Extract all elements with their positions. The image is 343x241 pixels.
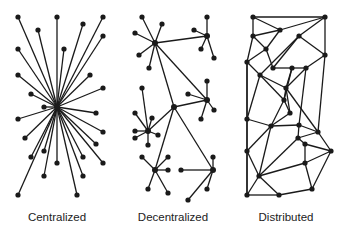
node — [303, 65, 308, 70]
node — [250, 14, 255, 19]
node — [93, 141, 98, 146]
edge — [253, 36, 266, 49]
edge — [174, 100, 207, 107]
edge — [299, 36, 325, 55]
node — [145, 186, 150, 191]
edge — [260, 75, 284, 100]
node — [132, 110, 137, 115]
edge — [271, 125, 299, 126]
node — [256, 173, 261, 178]
node — [302, 141, 307, 146]
node — [244, 192, 249, 197]
node — [132, 30, 137, 35]
node — [15, 14, 20, 19]
node — [35, 27, 40, 32]
node — [54, 14, 59, 19]
node — [283, 85, 288, 90]
edge — [188, 170, 213, 200]
node — [296, 33, 301, 38]
node — [270, 65, 275, 70]
edge — [148, 170, 155, 189]
node — [191, 27, 196, 32]
node — [15, 192, 20, 197]
node — [165, 154, 170, 159]
node — [281, 97, 286, 102]
node — [185, 91, 190, 96]
node — [204, 97, 210, 103]
node — [136, 52, 141, 57]
decentralized-network — [132, 14, 216, 202]
node — [100, 129, 105, 134]
edge — [247, 75, 260, 119]
edge — [259, 176, 279, 195]
edge — [18, 107, 57, 195]
node — [100, 160, 105, 165]
node — [328, 148, 333, 153]
edge — [155, 170, 168, 193]
node — [171, 104, 177, 110]
node — [100, 85, 105, 90]
node — [165, 167, 170, 172]
node — [198, 116, 203, 121]
node — [204, 78, 209, 83]
node — [41, 173, 46, 178]
node — [178, 167, 183, 172]
node — [149, 115, 154, 120]
edge — [306, 55, 325, 68]
node — [204, 33, 210, 39]
edge — [253, 17, 280, 30]
node — [100, 33, 105, 38]
node — [302, 160, 307, 165]
node — [296, 122, 301, 127]
node — [145, 128, 151, 134]
edge — [299, 17, 325, 36]
node — [41, 104, 46, 109]
node — [139, 14, 144, 19]
edge — [57, 17, 103, 107]
node — [165, 190, 170, 195]
node — [263, 46, 268, 51]
edge — [155, 24, 162, 43]
edge — [155, 36, 207, 43]
node — [80, 154, 85, 159]
node — [185, 197, 190, 202]
node — [80, 173, 85, 178]
node — [322, 14, 327, 19]
node — [198, 46, 203, 51]
node — [315, 129, 320, 134]
node — [257, 72, 262, 77]
node — [155, 132, 160, 137]
centralized-label: Centralized — [2, 211, 112, 223]
decentralized-label: Decentralized — [118, 211, 228, 223]
edge — [247, 62, 260, 75]
edge — [18, 49, 57, 107]
edge — [259, 126, 271, 176]
node — [87, 72, 92, 77]
node — [80, 21, 85, 26]
node — [146, 65, 151, 70]
edge — [280, 17, 325, 30]
node — [54, 104, 60, 110]
centralized-network — [15, 14, 105, 197]
node — [204, 14, 209, 19]
node — [152, 40, 158, 46]
node — [15, 46, 20, 51]
distributed-network — [244, 14, 333, 197]
node — [54, 160, 59, 165]
edge — [247, 119, 271, 126]
edge — [260, 75, 286, 88]
node — [309, 186, 314, 191]
edge — [318, 55, 325, 132]
node — [159, 21, 164, 26]
edge — [299, 68, 306, 125]
node — [145, 142, 150, 147]
edge — [279, 189, 312, 195]
edge — [312, 151, 331, 189]
node — [15, 116, 20, 121]
node — [28, 154, 33, 159]
node — [289, 65, 294, 70]
node — [277, 27, 282, 32]
distributed-label: Distributed — [231, 211, 341, 223]
node — [276, 192, 281, 197]
edge — [298, 132, 318, 138]
